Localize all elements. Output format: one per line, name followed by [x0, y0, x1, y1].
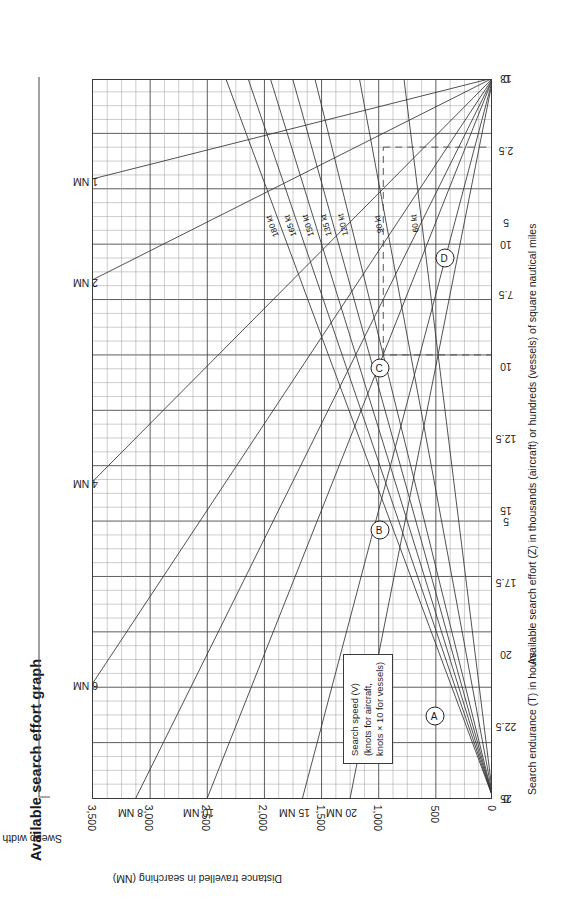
y-tick: 500: [429, 805, 441, 845]
x-bottom-tick: 5: [500, 519, 512, 525]
y-tick: 2,000: [257, 805, 269, 845]
x-top-tick: 10: [500, 361, 512, 373]
marker-c: C: [371, 359, 390, 378]
marker-a: A: [426, 707, 445, 726]
x-top-tick: 15: [500, 505, 512, 517]
chart-container: Sweep width (W) Search speed (V) (knots …: [24, 0, 575, 910]
legend-line-2: (knots for aircraft,: [362, 662, 375, 756]
x-top-tick: 2.5: [500, 144, 512, 159]
legend-line-3: knots × 10 for vessels): [374, 662, 387, 756]
speed-label: 60 kt: [409, 214, 420, 233]
x-top-tick: 12.5: [500, 429, 512, 449]
y-tick: 0: [486, 805, 498, 845]
sweep-width-label: 20 NM: [326, 807, 357, 819]
legend-line-1: Search speed (V): [349, 662, 362, 756]
sweep-width-label: 15 NM: [279, 807, 310, 819]
sweep-width-label: 4 NM: [73, 478, 98, 490]
speed-legend-box: Search speed (V) (knots for aircraft, kn…: [343, 654, 393, 764]
marker-b: B: [371, 521, 390, 540]
sweep-width-label: 10 NM: [183, 807, 214, 819]
x-axis-top-label: Available search effort (Z) in thousands…: [526, 224, 538, 665]
y-tick: 3,500: [86, 805, 98, 845]
sweep-width-label: 8 NM: [118, 807, 143, 819]
y-tick: 1,000: [372, 805, 384, 845]
chart-stage: Sweep width (W) Search speed (V) (knots …: [34, 15, 564, 895]
construction-lines: [93, 79, 492, 798]
x-bottom-tick: 10: [500, 239, 512, 251]
x-top-tick: 7.5: [500, 288, 512, 303]
plot-area: Search speed (V) (knots for aircraft, kn…: [92, 79, 492, 799]
x-top-tick: 22.5: [500, 717, 512, 737]
y-tick: 3,000: [143, 805, 155, 845]
sweep-width-bracket: [36, 75, 52, 799]
marker-d: D: [436, 249, 455, 268]
y-axis-label: Distance travelled in searching (NM): [113, 873, 282, 885]
sweep-width-label: 6 NM: [73, 680, 98, 692]
x-top-tick: 20: [500, 649, 512, 661]
sweep-width-title: Sweep width (W): [0, 833, 62, 845]
x-top-tick: 5: [500, 220, 512, 226]
x-top-tick: 0: [500, 76, 512, 82]
sweep-width-label: 2 NM: [73, 277, 98, 289]
x-top-tick: 17.5: [500, 573, 512, 593]
x-axis-bottom-label: Search endurance (T) in hours: [526, 653, 538, 795]
y-tick: 1,500: [315, 805, 327, 845]
x-top-tick: 25: [500, 793, 512, 805]
sweep-width-label: 1 NM: [73, 176, 98, 188]
